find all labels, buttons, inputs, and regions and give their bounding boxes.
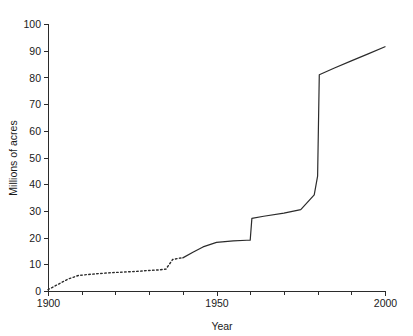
y-tick-label: 10 bbox=[29, 258, 41, 270]
x-tick-label: 1900 bbox=[37, 297, 61, 309]
y-tick-label: 40 bbox=[29, 178, 41, 190]
y-tick-label: 0 bbox=[35, 285, 41, 297]
y-tick-label: 90 bbox=[29, 45, 41, 57]
y-axis-title: Millions of acres bbox=[7, 120, 19, 195]
x-tick-label: 2000 bbox=[374, 297, 398, 309]
y-tick-label: 80 bbox=[29, 72, 41, 84]
x-tick-label: 1950 bbox=[205, 297, 229, 309]
line-chart: 0102030405060708090100 190019502000 Mill… bbox=[0, 0, 413, 336]
data-series-group bbox=[48, 47, 385, 290]
x-axis-title: Year bbox=[211, 320, 233, 332]
y-tick-label: 50 bbox=[29, 152, 41, 164]
y-tick-label: 100 bbox=[23, 18, 41, 30]
y-tick-label: 30 bbox=[29, 205, 41, 217]
x-axis: 190019502000 bbox=[37, 291, 398, 309]
y-tick-label: 60 bbox=[29, 125, 41, 137]
chart-canvas: 0102030405060708090100 190019502000 Mill… bbox=[0, 0, 413, 336]
y-tick-label: 20 bbox=[29, 232, 41, 244]
series-line-recorded-period bbox=[183, 47, 385, 258]
y-axis: 0102030405060708090100 bbox=[23, 18, 48, 297]
series-line-estimated-early-period bbox=[48, 258, 183, 290]
y-tick-label: 70 bbox=[29, 98, 41, 110]
